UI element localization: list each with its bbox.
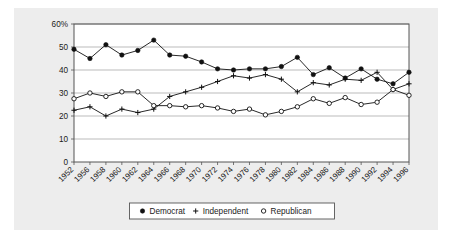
data-point-marker — [72, 47, 76, 51]
data-point-marker — [231, 109, 235, 113]
data-point-marker — [327, 101, 331, 105]
y-axis-tick-label: 50 — [59, 43, 69, 52]
data-point-marker — [168, 103, 172, 107]
data-point-marker — [120, 53, 124, 57]
data-point-marker — [140, 209, 144, 213]
data-point-marker — [263, 113, 267, 117]
data-point-marker — [343, 95, 347, 99]
legend-item-label: Independent — [203, 207, 249, 216]
data-point-marker — [183, 105, 187, 109]
legend-item-label: Democrat — [150, 207, 186, 216]
y-axis-tick-label: 30 — [59, 89, 69, 98]
data-point-marker — [311, 72, 315, 76]
data-point-marker — [279, 64, 283, 68]
data-point-marker — [407, 70, 411, 74]
data-point-marker — [136, 90, 140, 94]
data-point-marker — [391, 87, 395, 91]
data-point-marker — [359, 102, 363, 106]
data-point-marker — [88, 56, 92, 60]
data-point-marker — [88, 91, 92, 95]
data-point-marker — [136, 48, 140, 52]
data-point-marker — [183, 54, 187, 58]
data-point-marker — [263, 67, 267, 71]
data-point-marker — [295, 55, 299, 59]
chart-figure: 0102030405060% 1952195619581960196219641… — [14, 8, 438, 230]
y-axis-tick-label: 10 — [59, 135, 69, 144]
data-point-marker — [295, 105, 299, 109]
data-point-marker — [104, 94, 108, 98]
data-point-marker — [247, 107, 251, 111]
data-point-marker — [375, 77, 379, 81]
data-point-marker — [72, 97, 76, 101]
data-point-marker — [359, 67, 363, 71]
data-point-marker — [168, 53, 172, 57]
data-point-marker — [104, 43, 108, 47]
party-identification-line-chart: 0102030405060% 1952195619581960196219641… — [14, 8, 438, 230]
data-point-marker — [311, 97, 315, 101]
data-point-marker — [152, 103, 156, 107]
data-point-marker — [391, 82, 395, 86]
data-point-marker — [215, 67, 219, 71]
data-point-marker — [261, 209, 265, 213]
data-point-marker — [120, 90, 124, 94]
data-point-marker — [247, 67, 251, 71]
data-point-marker — [231, 68, 235, 72]
data-point-marker — [152, 38, 156, 42]
data-point-marker — [279, 109, 283, 113]
chart-legend: DemocratIndependentRepublican — [130, 203, 335, 219]
data-point-marker — [199, 60, 203, 64]
legend-item-label: Republican — [271, 207, 312, 216]
data-point-marker — [407, 93, 411, 97]
data-point-marker — [215, 106, 219, 110]
data-point-marker — [375, 100, 379, 104]
y-axis-tick-label: 60% — [52, 20, 68, 29]
y-axis-tick-label: 40 — [59, 66, 69, 75]
data-point-marker — [199, 103, 203, 107]
data-point-marker — [327, 66, 331, 70]
y-axis-tick-label: 20 — [59, 112, 69, 121]
